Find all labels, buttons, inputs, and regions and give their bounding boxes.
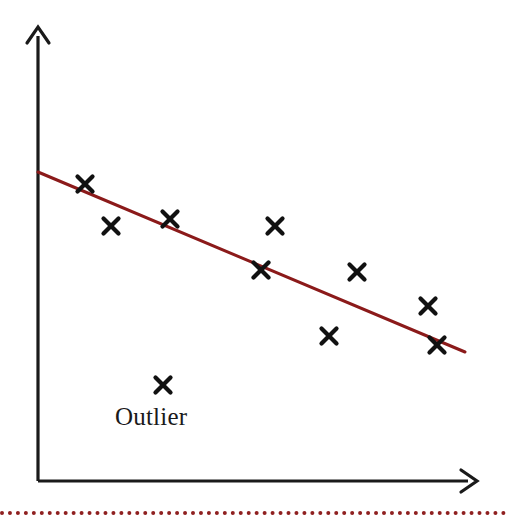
bottom-dotted-rule bbox=[0, 511, 506, 515]
plot-canvas bbox=[0, 0, 506, 515]
y-axis bbox=[27, 27, 49, 481]
outlier-marker bbox=[156, 378, 171, 393]
scatter-plot-figure: Outlier bbox=[0, 0, 506, 515]
x-axis bbox=[38, 470, 477, 492]
outlier-annotation-label: Outlier bbox=[115, 403, 187, 431]
